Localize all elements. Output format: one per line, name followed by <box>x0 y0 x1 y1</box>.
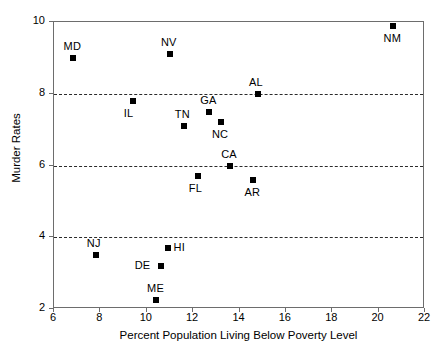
point-label-nv: NV <box>161 37 177 48</box>
x-tick-label-10: 10 <box>131 311 161 323</box>
data-point-ca[interactable] <box>227 163 233 169</box>
point-label-fl: FL <box>189 183 202 194</box>
y-tick-label-2: 2 <box>17 302 45 313</box>
x-tick-label-12: 12 <box>177 311 207 323</box>
y-axis-label: Murder Rates <box>10 88 22 208</box>
data-point-me[interactable] <box>153 297 159 303</box>
data-point-al[interactable] <box>255 91 261 97</box>
gridline-y-4 <box>54 237 423 238</box>
y-tick-8 <box>49 93 53 94</box>
point-label-il: IL <box>124 108 134 119</box>
data-point-fl[interactable] <box>195 173 201 179</box>
x-tick-label-18: 18 <box>316 311 346 323</box>
y-tick-10 <box>49 21 53 22</box>
gridline-y-6 <box>54 166 423 167</box>
data-point-nm[interactable] <box>390 23 396 29</box>
point-label-nc: NC <box>212 129 228 140</box>
data-point-il[interactable] <box>130 98 136 104</box>
data-point-md[interactable] <box>70 55 76 61</box>
point-label-tn: TN <box>175 109 190 120</box>
point-label-ca: CA <box>221 149 237 160</box>
point-label-de: DE <box>135 260 151 271</box>
point-label-me: ME <box>147 283 164 294</box>
x-tick-label-16: 16 <box>270 311 300 323</box>
data-point-tn[interactable] <box>181 123 187 129</box>
data-point-nc[interactable] <box>218 119 224 125</box>
x-tick-label-20: 20 <box>363 311 393 323</box>
point-label-ga: GA <box>200 95 216 106</box>
y-tick-label-4: 4 <box>17 230 45 241</box>
scatter-plot-figure: MDNVNMILTNGANCALCAFLARNJHIDEME 681012141… <box>0 0 448 357</box>
data-point-nv[interactable] <box>167 51 173 57</box>
point-label-hi: HI <box>174 242 185 253</box>
plot-area: MDNVNMILTNGANCALCAFLARNJHIDEME <box>53 21 424 308</box>
point-label-nj: NJ <box>87 238 101 249</box>
point-label-al: AL <box>249 77 263 88</box>
y-tick-4 <box>49 236 53 237</box>
data-point-nj[interactable] <box>93 252 99 258</box>
x-tick-label-14: 14 <box>224 311 254 323</box>
x-tick-label-22: 22 <box>409 311 439 323</box>
y-tick-label-10: 10 <box>17 15 45 26</box>
data-point-de[interactable] <box>158 263 164 269</box>
point-label-md: MD <box>64 41 82 52</box>
point-label-nm: NM <box>384 33 402 44</box>
y-tick-2 <box>49 308 53 309</box>
data-point-ar[interactable] <box>250 177 256 183</box>
y-tick-6 <box>49 165 53 166</box>
data-point-ga[interactable] <box>206 109 212 115</box>
point-label-ar: AR <box>244 187 260 198</box>
x-axis-label: Percent Population Living Below Poverty … <box>53 329 424 341</box>
x-tick-label-8: 8 <box>84 311 114 323</box>
data-point-hi[interactable] <box>165 245 171 251</box>
gridline-y-8 <box>54 94 423 95</box>
